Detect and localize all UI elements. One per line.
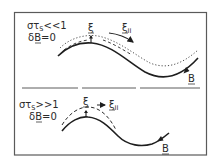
top-field-label: B <box>188 73 195 84</box>
bottom-field-label: B <box>162 143 169 154</box>
top-perturbation-label: δB=0 <box>28 32 56 43</box>
bottom-field-line <box>62 117 169 146</box>
top-xi-label: ξ <box>88 22 94 33</box>
top-field-line <box>58 43 198 77</box>
bottom-xi-label: ξ <box>83 96 89 107</box>
top-displacement-dashes <box>64 40 132 55</box>
bottom-field-arrow-icon <box>157 136 164 142</box>
bottom-panel: στS>>1 δB=0 ξ ξII B <box>19 96 169 154</box>
bottom-perturbation-label: δB=0 <box>29 111 57 122</box>
field-line-diagram: στS<<1 δB=0 ξ ξII B <box>0 0 218 165</box>
top-panel: στS<<1 δB=0 ξ ξII B <box>27 20 198 84</box>
